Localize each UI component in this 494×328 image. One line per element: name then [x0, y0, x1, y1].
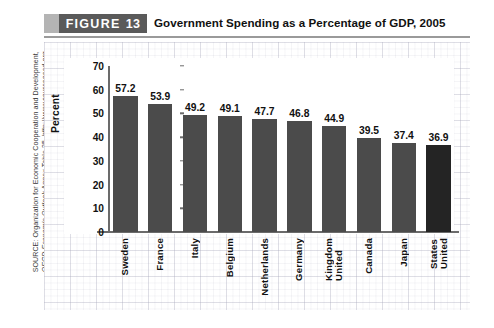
banner-tab-block	[44, 14, 59, 33]
bar-value-label: 36.9	[429, 132, 449, 143]
bar-item[interactable]: 44.9	[322, 66, 346, 232]
x-category-item: UnitedStates	[421, 236, 456, 314]
bar-item[interactable]: 39.5	[357, 66, 381, 232]
y-tick-label: 70	[78, 61, 104, 72]
x-category-label: Germany	[294, 238, 304, 281]
x-axis-category-labels: SwedenFranceItalyBelgiumNetherlandsGerma…	[108, 236, 456, 316]
x-category-item: Germany	[282, 236, 317, 314]
bar-value-label: 57.2	[115, 83, 135, 94]
figure-banner: FIGURE 13 Government Spending as a Perce…	[44, 13, 470, 34]
bar-value-label: 44.9	[324, 113, 344, 124]
x-category-item: France	[143, 236, 178, 314]
x-category-item: Italy	[178, 236, 213, 314]
x-category-item: UnitedKingdom	[317, 236, 352, 314]
bar-rect[interactable]	[322, 126, 346, 232]
bar-value-label: 49.2	[185, 102, 205, 113]
bar-value-label: 47.7	[255, 106, 275, 117]
banner-divider	[44, 36, 470, 38]
x-category-label: UnitedKingdom	[324, 238, 344, 281]
x-category-label: France	[155, 238, 165, 271]
bar-rect[interactable]	[287, 121, 311, 232]
x-category-word: Kingdom	[324, 238, 334, 281]
y-tick-label: 10	[78, 203, 104, 214]
bar-item[interactable]: 37.4	[392, 66, 416, 232]
x-category-word: Sweden	[120, 238, 130, 275]
bar-rect[interactable]	[218, 116, 242, 232]
bar-item[interactable]: 47.7	[252, 66, 276, 232]
bar-item[interactable]: 36.9	[426, 66, 450, 232]
x-category-label: Belgium	[225, 238, 235, 277]
x-category-item: Sweden	[108, 236, 143, 314]
x-category-label: Canada	[364, 238, 374, 274]
x-category-item: Belgium	[212, 236, 247, 314]
x-category-word: Netherlands	[260, 238, 270, 296]
y-tick-label: 20	[78, 179, 104, 190]
x-category-label: Sweden	[120, 238, 130, 275]
bar-value-label: 37.4	[394, 130, 414, 141]
figure-container: SOURCE: Organization for Economic Cooper…	[0, 0, 494, 328]
x-category-label: Italy	[190, 238, 200, 258]
bar-rect[interactable]	[426, 145, 450, 233]
y-tick-label: 40	[78, 132, 104, 143]
y-tick-label: 50	[78, 108, 104, 119]
bar-rect[interactable]	[357, 138, 381, 232]
bar-rect[interactable]	[113, 96, 137, 232]
bar-item[interactable]: 57.2	[113, 66, 137, 232]
x-category-item: Canada	[352, 236, 387, 314]
x-category-word: Canada	[364, 238, 374, 274]
bar-value-label: 46.8	[289, 108, 309, 119]
y-tick-label: 30	[78, 155, 104, 166]
x-category-word: Germany	[294, 238, 304, 281]
bar-value-label: 39.5	[359, 125, 379, 136]
x-category-word: Belgium	[225, 238, 235, 277]
bar-item[interactable]: 53.9	[148, 66, 172, 232]
bars-group: 57.253.949.249.147.746.844.939.537.436.9	[108, 66, 456, 232]
x-category-word: United	[334, 238, 344, 281]
bar-item[interactable]: 49.1	[218, 66, 242, 232]
x-category-item: Netherlands	[247, 236, 282, 314]
x-category-label: Japan	[399, 238, 409, 267]
source-line-1: SOURCE: Organization for Economic Cooper…	[32, 2, 41, 272]
figure-title: Government Spending as a Percentage of G…	[154, 16, 445, 29]
figure-number: 13	[126, 17, 141, 31]
bar-item[interactable]: 49.2	[183, 66, 207, 232]
bar-rect[interactable]	[183, 115, 207, 232]
x-category-item: Japan	[386, 236, 421, 314]
x-category-word: Japan	[399, 238, 409, 267]
x-category-word: States	[429, 238, 439, 269]
y-tick-label: 60	[78, 84, 104, 95]
y-axis-title: Percent	[50, 94, 61, 133]
x-category-word: United	[439, 238, 449, 269]
bar-rect[interactable]	[252, 119, 276, 232]
bar-value-label: 53.9	[150, 91, 170, 102]
bar-rect[interactable]	[148, 104, 172, 232]
x-category-label: UnitedStates	[429, 238, 449, 269]
x-category-word: Italy	[190, 238, 200, 258]
bar-rect[interactable]	[392, 143, 416, 232]
x-category-word: France	[155, 238, 165, 271]
bar-item[interactable]: 46.8	[287, 66, 311, 232]
y-axis-ticks: 010203040506070	[76, 0, 104, 328]
y-tick-label: 0	[78, 227, 104, 238]
x-category-label: Netherlands	[260, 238, 270, 296]
bar-value-label: 49.1	[220, 103, 240, 114]
